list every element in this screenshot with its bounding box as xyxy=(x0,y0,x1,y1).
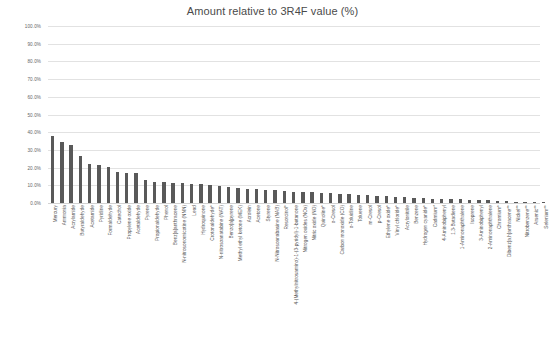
x-axis-tick-labels: MercuryAmmoniaAcrylamideButyraldehydeAce… xyxy=(48,205,540,350)
y-axis-tick-label: 80.0% xyxy=(27,59,41,64)
x-label-slot: Acrylamide xyxy=(67,205,76,350)
bar[interactable] xyxy=(403,197,406,203)
x-label-slot: Benzene xyxy=(409,205,418,350)
x-label-slot: Ethylene oxide* xyxy=(382,205,391,350)
bar[interactable] xyxy=(69,145,72,203)
bar-slot xyxy=(317,26,326,203)
bar-slot xyxy=(261,26,270,203)
bar[interactable] xyxy=(246,189,249,203)
bar[interactable] xyxy=(88,164,91,203)
x-label-slot: Resorcinol* xyxy=(280,205,289,350)
bar-slot xyxy=(48,26,57,203)
bar[interactable] xyxy=(523,202,526,203)
bar[interactable] xyxy=(273,190,276,203)
bar-slot xyxy=(187,26,196,203)
bar[interactable] xyxy=(514,202,517,203)
bar-slot xyxy=(419,26,428,203)
x-label-slot: Nitrobenzene** xyxy=(521,205,530,350)
bar[interactable] xyxy=(301,192,304,203)
x-label-slot: m-Cresol xyxy=(363,205,372,350)
bar[interactable] xyxy=(310,192,313,203)
bar[interactable] xyxy=(477,200,480,203)
x-label-slot: Methyl ethyl ketone (MEK) xyxy=(233,205,242,350)
bar-slot xyxy=(76,26,85,203)
bar[interactable] xyxy=(357,195,360,203)
x-label-slot: 4-(Methylnitrosamino)-1-(3-pyridyl)-1-bu… xyxy=(289,205,298,350)
bar[interactable] xyxy=(412,198,415,203)
y-axis-tick-label: 0.0% xyxy=(30,201,41,206)
bar[interactable] xyxy=(181,183,184,203)
bar[interactable] xyxy=(366,195,369,203)
bar[interactable] xyxy=(208,185,211,203)
bar[interactable] xyxy=(255,189,258,203)
bar[interactable] xyxy=(79,156,82,203)
bar[interactable] xyxy=(329,193,332,203)
bar[interactable] xyxy=(468,200,471,203)
bar[interactable] xyxy=(264,190,267,203)
bar[interactable] xyxy=(227,187,230,203)
bar[interactable] xyxy=(107,167,110,203)
x-label-slot: Crotonaldehyde* xyxy=(206,205,215,350)
x-label-slot: Benz[a]anthracene xyxy=(168,205,177,350)
bar[interactable] xyxy=(199,184,202,203)
bar[interactable] xyxy=(218,186,221,203)
x-label-slot: Formaldehyde xyxy=(104,205,113,350)
bar[interactable] xyxy=(431,199,434,203)
bar[interactable] xyxy=(144,180,147,203)
bar-slot xyxy=(150,26,159,203)
bar[interactable] xyxy=(486,200,489,203)
bar[interactable] xyxy=(116,172,119,203)
y-axis-tick-label: 50.0% xyxy=(27,112,41,117)
bar-slot xyxy=(307,26,316,203)
bar[interactable] xyxy=(162,182,165,203)
bar[interactable] xyxy=(422,198,425,203)
bar[interactable] xyxy=(505,201,508,203)
bar-slot xyxy=(57,26,66,203)
bar[interactable] xyxy=(385,196,388,203)
bar[interactable] xyxy=(236,188,239,203)
bar-slot xyxy=(372,26,381,203)
bar[interactable] xyxy=(97,165,100,203)
bar[interactable] xyxy=(375,196,378,203)
x-label-slot: Toluene xyxy=(354,205,363,350)
bar-slot xyxy=(289,26,298,203)
x-label-slot: o-Toluidine xyxy=(345,205,354,350)
bar[interactable] xyxy=(125,173,128,203)
bar[interactable] xyxy=(449,199,452,203)
bar[interactable] xyxy=(51,136,54,203)
x-label-slot: Ammonia xyxy=(57,205,66,350)
x-label-slot: Isoprene xyxy=(465,205,474,350)
bar[interactable] xyxy=(542,202,545,203)
x-label-slot: Catechol xyxy=(113,205,122,350)
bar[interactable] xyxy=(171,183,174,203)
bar[interactable] xyxy=(394,197,397,203)
bar[interactable] xyxy=(60,142,63,203)
bar[interactable] xyxy=(338,194,341,203)
bar-slot xyxy=(298,26,307,203)
bar[interactable] xyxy=(190,184,193,203)
bar[interactable] xyxy=(292,192,295,204)
bar[interactable] xyxy=(320,193,323,203)
bar-slot xyxy=(437,26,446,203)
bar[interactable] xyxy=(496,201,499,203)
bar[interactable] xyxy=(134,173,137,203)
y-axis-tick-label: 60.0% xyxy=(27,94,41,99)
bar-slot xyxy=(465,26,474,203)
x-label-slot: Styrene xyxy=(261,205,270,350)
bar-slot xyxy=(85,26,94,203)
bar[interactable] xyxy=(440,199,443,203)
x-label-slot: 3-Aminobiphenyl xyxy=(474,205,483,350)
bar[interactable] xyxy=(153,182,156,203)
bar-slot xyxy=(539,26,548,203)
bar[interactable] xyxy=(459,199,462,203)
x-label-slot: Cadmium* xyxy=(428,205,437,350)
x-label-slot: N-Nitrosoanabasine (NAB) xyxy=(270,205,279,350)
bar-series xyxy=(48,26,540,203)
bar[interactable] xyxy=(533,202,536,203)
x-label-slot: Acrylonitrile xyxy=(400,205,409,350)
bar-slot xyxy=(409,26,418,203)
x-label-slot: 1,3-Butadiene xyxy=(446,205,455,350)
bar[interactable] xyxy=(283,191,286,203)
bar[interactable] xyxy=(347,194,350,203)
